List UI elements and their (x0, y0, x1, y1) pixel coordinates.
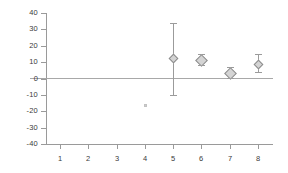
y-axis-tick (41, 128, 46, 129)
y-axis-tick (41, 111, 46, 112)
y-axis-label: -10 (6, 91, 38, 99)
y-axis-tick (41, 13, 46, 14)
x-axis-tick (88, 144, 89, 149)
y-axis-label: 10 (6, 58, 38, 66)
data-point-marker (253, 59, 263, 69)
error-bar-cap (255, 54, 262, 55)
x-axis-tick (201, 144, 202, 149)
y-axis-tick (41, 29, 46, 30)
error-bar-cap (170, 23, 177, 24)
y-axis-label: 0 (6, 75, 38, 83)
y-axis-tick (41, 79, 46, 80)
x-axis-tick (258, 144, 259, 149)
x-axis-label: 1 (50, 155, 70, 163)
y-axis-line (46, 13, 47, 145)
y-axis-tick (41, 144, 46, 145)
x-axis-label: 3 (107, 155, 127, 163)
y-axis-label: -20 (6, 107, 38, 115)
zero-reference-line (30, 78, 273, 79)
error-bar-cap (255, 72, 262, 73)
x-axis-tick (145, 144, 146, 149)
x-axis-tick (230, 144, 231, 149)
data-point-marker (195, 54, 208, 67)
x-axis-tick (60, 144, 61, 149)
y-axis-label: 30 (6, 25, 38, 33)
y-axis-tick (41, 95, 46, 96)
forest-plot-chart: 403020100-10-20-30-40 12345678 (0, 0, 288, 173)
data-point-marker (168, 53, 178, 63)
y-axis-tick (41, 46, 46, 47)
x-axis-label: 5 (163, 155, 183, 163)
y-axis-tick (41, 62, 46, 63)
x-axis-label: 7 (220, 155, 240, 163)
x-axis-tick (173, 144, 174, 149)
y-axis-label: -40 (6, 140, 38, 148)
y-axis-label: 40 (6, 9, 38, 17)
y-axis-label: 20 (6, 42, 38, 50)
x-axis-label: 6 (191, 155, 211, 163)
data-point-faint (144, 104, 147, 107)
y-axis-label: -30 (6, 124, 38, 132)
x-axis-label: 4 (135, 155, 155, 163)
x-axis-label: 8 (248, 155, 268, 163)
error-bar-cap (170, 95, 177, 96)
x-axis-label: 2 (78, 155, 98, 163)
x-axis-tick (117, 144, 118, 149)
x-axis-line (46, 144, 273, 145)
